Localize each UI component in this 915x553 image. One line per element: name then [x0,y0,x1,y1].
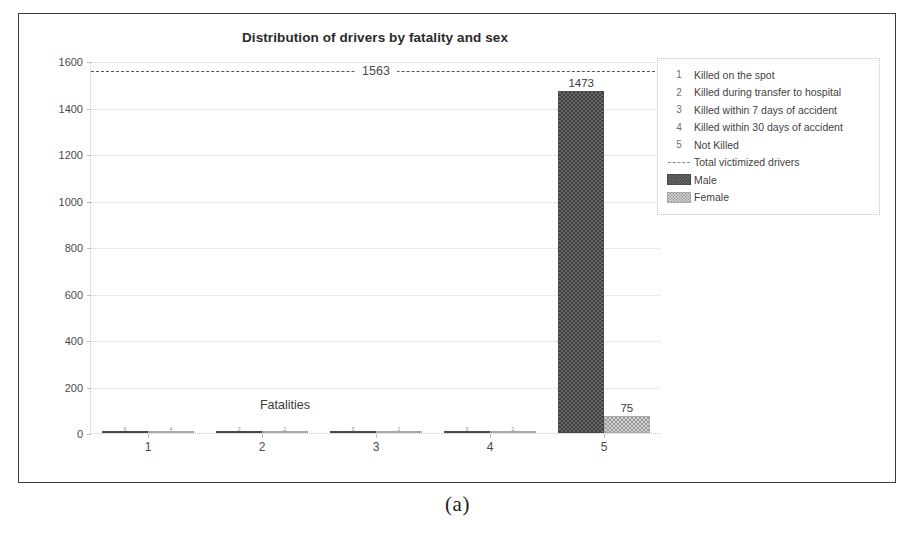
y-tick-mark [87,341,91,342]
y-tick-label: 1200 [59,149,83,161]
legend-key: 5 [664,139,694,150]
y-tick-mark [87,434,91,435]
legend-key: 4 [664,122,694,133]
figure-caption: (a) [0,492,915,517]
dashed-line-swatch [664,162,694,163]
legend-entry-male: Male [664,171,873,189]
legend-entry-total-line: Total victimized drivers [664,154,873,172]
bar-female-5 [604,416,650,433]
bar-male-5 [558,91,604,433]
plot-area: 02004006008001000120014001600 12345 1563… [90,62,660,434]
legend-entry: 5Not Killed [664,136,873,154]
y-tick-mark [87,109,91,110]
y-tick-label: 600 [65,289,83,301]
y-tick-label: 1000 [59,196,83,208]
y-tick-mark [87,248,91,249]
y-tick-mark [87,155,91,156]
legend-label: Male [694,174,717,186]
y-tick-mark [87,388,91,389]
y-tick-mark [87,295,91,296]
legend-label: Total victimized drivers [694,156,800,168]
chart-title: Distribution of drivers by fatality and … [90,30,660,45]
chart-legend: 1Killed on the spot2Killed during transf… [657,58,880,215]
x-tick-mark [262,434,263,438]
bar-value-label: 2 [283,426,286,432]
legend-label: Not Killed [694,139,739,151]
y-tick-label: 1600 [59,56,83,68]
y-tick-label: 400 [65,335,83,347]
bar-value-label: 4 [169,426,172,432]
x-tick-label: 2 [259,440,266,454]
x-axis-label: Fatalities [260,398,310,412]
legend-entry: 1Killed on the spot [664,66,873,84]
x-tick-label: 3 [373,440,380,454]
bar-value-label: 75 [620,402,633,414]
x-tick-label: 1 [145,440,152,454]
legend-label: Female [694,191,729,203]
legend-label: Killed within 7 days of accident [694,104,837,116]
x-tick-label: 4 [487,440,494,454]
x-tick-mark [376,434,377,438]
x-tick-mark [490,434,491,438]
y-tick-mark [87,202,91,203]
y-tick-label: 0 [77,428,83,440]
legend-label: Killed on the spot [694,69,775,81]
legend-key: 2 [664,87,694,98]
y-tick-label: 1400 [59,103,83,115]
bar-value-label: 5 [466,426,469,432]
y-tick-label: 200 [65,382,83,394]
legend-entry: 4Killed within 30 days of accident [664,119,873,137]
legend-entry: 3Killed within 7 days of accident [664,101,873,119]
bar-value-label: 5 [352,426,355,432]
x-tick-mark [148,434,149,438]
male-hatch-swatch [664,174,694,185]
female-hatch-swatch [664,192,694,203]
y-tick-mark [87,62,91,63]
bar-value-label: 6 [124,426,127,432]
legend-label: Killed within 30 days of accident [694,121,843,133]
legend-entry-female: Female [664,189,873,207]
legend-key: 1 [664,69,694,80]
legend-key: 3 [664,104,694,115]
legend-entry: 2Killed during transfer to hospital [664,84,873,102]
bar-value-label: 2 [511,426,514,432]
bar-value-label: 1 [397,426,400,432]
y-tick-label: 800 [65,242,83,254]
bar-value-label: 3 [238,426,241,432]
reference-line-label: 1563 [355,64,397,78]
bar-value-label: 1473 [568,77,594,89]
x-tick-label: 5 [601,440,608,454]
x-tick-mark [604,434,605,438]
legend-label: Killed during transfer to hospital [694,86,841,98]
